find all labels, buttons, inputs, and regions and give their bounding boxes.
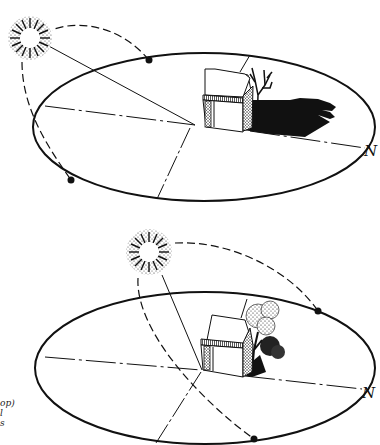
sun-ray (45, 44, 195, 125)
ne-radial (240, 55, 250, 72)
horizon-ellipse (33, 53, 375, 201)
sunset-dot (68, 177, 75, 184)
sunrise-dot (146, 57, 153, 64)
winter-panel: N (8, 16, 378, 201)
sun-icon (126, 229, 172, 275)
sw-radial (157, 128, 190, 199)
north-south-axis (245, 376, 362, 389)
sun-path-diagram: N (0, 0, 380, 445)
sunset-dot (251, 436, 258, 443)
house-icon (203, 69, 253, 132)
sw-radial (156, 372, 201, 443)
caption-fragment: op) l s (0, 398, 15, 428)
sun-ray (162, 275, 202, 370)
sunrise-dot (315, 308, 322, 315)
north-label: N (363, 142, 378, 160)
east-west-axis (45, 106, 195, 125)
caption-line-2: l (0, 408, 15, 418)
summer-panel: N (35, 229, 376, 444)
house-icon (201, 315, 253, 377)
north-label: N (361, 384, 376, 402)
sun-icon (8, 16, 52, 60)
caption-line-1: op) (0, 398, 15, 408)
caption-line-3: s (0, 418, 15, 428)
